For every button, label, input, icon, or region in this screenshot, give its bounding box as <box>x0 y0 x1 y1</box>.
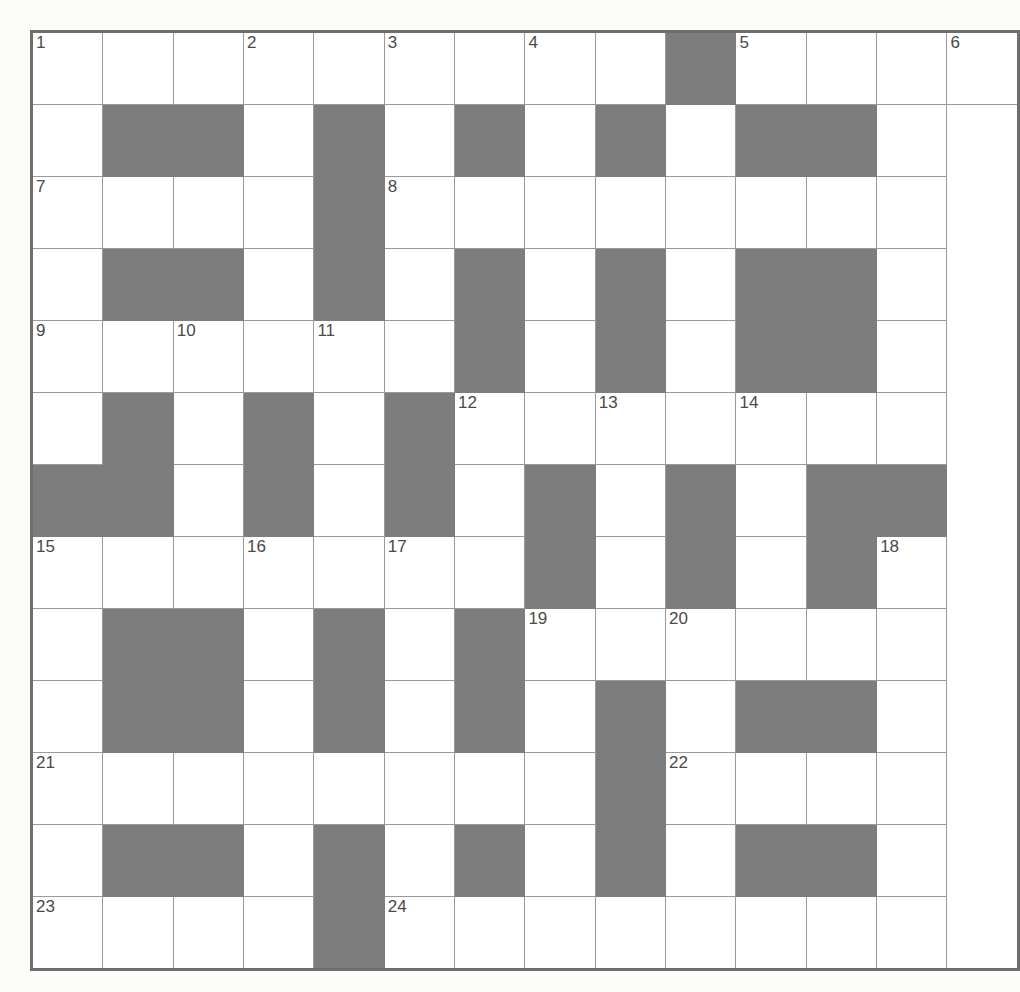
crossword-cell[interactable] <box>525 753 595 825</box>
crossword-cell[interactable] <box>877 32 947 105</box>
crossword-cell[interactable]: 15 <box>32 537 103 609</box>
crossword-cell[interactable] <box>455 753 525 825</box>
crossword-cell[interactable] <box>595 537 665 609</box>
crossword-cell[interactable]: 24 <box>384 897 454 970</box>
crossword-cell[interactable]: 12 <box>455 393 525 465</box>
crossword-cell[interactable] <box>806 177 876 249</box>
crossword-cell[interactable] <box>173 177 243 249</box>
crossword-cell[interactable] <box>877 609 947 681</box>
crossword-cell[interactable] <box>736 897 806 970</box>
crossword-cell[interactable] <box>244 321 314 393</box>
crossword-cell[interactable] <box>244 609 314 681</box>
crossword-cell[interactable] <box>455 32 525 105</box>
crossword-cell[interactable] <box>736 609 806 681</box>
crossword-cell[interactable] <box>384 105 454 177</box>
crossword-cell[interactable] <box>877 897 947 970</box>
crossword-cell[interactable] <box>525 681 595 753</box>
crossword-cell[interactable] <box>384 249 454 321</box>
crossword-cell[interactable]: 5 <box>736 32 806 105</box>
crossword-cell[interactable]: 6 <box>947 32 1019 105</box>
crossword-cell[interactable] <box>103 537 173 609</box>
crossword-cell[interactable]: 3 <box>384 32 454 105</box>
crossword-cell[interactable] <box>666 897 736 970</box>
crossword-cell[interactable] <box>525 249 595 321</box>
crossword-cell[interactable] <box>32 681 103 753</box>
crossword-cell[interactable] <box>806 393 876 465</box>
crossword-cell[interactable] <box>103 177 173 249</box>
crossword-cell[interactable] <box>666 825 736 897</box>
crossword-cell[interactable] <box>595 897 665 970</box>
crossword-cell[interactable] <box>877 393 947 465</box>
crossword-cell[interactable] <box>806 609 876 681</box>
crossword-cell[interactable]: 4 <box>525 32 595 105</box>
crossword-cell[interactable] <box>244 681 314 753</box>
crossword-cell[interactable] <box>244 105 314 177</box>
crossword-cell[interactable]: 2 <box>244 32 314 105</box>
crossword-cell[interactable]: 23 <box>32 897 103 970</box>
crossword-cell[interactable]: 16 <box>244 537 314 609</box>
crossword-cell[interactable] <box>525 105 595 177</box>
crossword-cell[interactable] <box>595 177 665 249</box>
crossword-cell[interactable] <box>666 105 736 177</box>
crossword-cell[interactable] <box>877 753 947 825</box>
crossword-cell[interactable] <box>877 681 947 753</box>
crossword-cell[interactable] <box>877 177 947 249</box>
crossword-cell[interactable] <box>244 753 314 825</box>
crossword-cell[interactable] <box>103 897 173 970</box>
crossword-cell[interactable] <box>314 753 384 825</box>
crossword-cell[interactable] <box>314 393 384 465</box>
crossword-cell[interactable]: 10 <box>173 321 243 393</box>
crossword-cell[interactable]: 1 <box>32 32 103 105</box>
crossword-cell[interactable] <box>666 177 736 249</box>
crossword-cell[interactable] <box>314 32 384 105</box>
crossword-cell[interactable] <box>103 753 173 825</box>
crossword-cell[interactable] <box>173 32 243 105</box>
crossword-cell[interactable] <box>314 465 384 537</box>
crossword-cell[interactable]: 13 <box>595 393 665 465</box>
crossword-cell[interactable] <box>384 825 454 897</box>
crossword-cell[interactable] <box>173 465 243 537</box>
crossword-cell[interactable] <box>736 753 806 825</box>
crossword-cell[interactable] <box>32 825 103 897</box>
crossword-cell[interactable]: 19 <box>525 609 595 681</box>
crossword-cell[interactable] <box>455 465 525 537</box>
crossword-cell[interactable] <box>666 321 736 393</box>
crossword-cell[interactable]: 21 <box>32 753 103 825</box>
crossword-cell[interactable] <box>32 393 103 465</box>
crossword-cell[interactable] <box>877 105 947 177</box>
crossword-cell[interactable]: 7 <box>32 177 103 249</box>
crossword-cell[interactable]: 8 <box>384 177 454 249</box>
crossword-cell[interactable] <box>173 393 243 465</box>
crossword-cell[interactable] <box>525 177 595 249</box>
crossword-cell[interactable] <box>32 105 103 177</box>
crossword-cell[interactable]: 11 <box>314 321 384 393</box>
crossword-cell[interactable] <box>666 393 736 465</box>
crossword-cell[interactable] <box>806 897 876 970</box>
crossword-cell[interactable] <box>666 681 736 753</box>
crossword-cell[interactable] <box>244 825 314 897</box>
crossword-cell[interactable] <box>595 32 665 105</box>
crossword-cell[interactable] <box>384 681 454 753</box>
crossword-cell[interactable] <box>455 537 525 609</box>
crossword-cell[interactable] <box>595 465 665 537</box>
crossword-cell[interactable] <box>384 609 454 681</box>
crossword-cell[interactable] <box>666 249 736 321</box>
crossword-cell[interactable] <box>32 249 103 321</box>
crossword-cell[interactable] <box>173 897 243 970</box>
crossword-cell[interactable] <box>806 753 876 825</box>
crossword-cell[interactable] <box>525 393 595 465</box>
crossword-cell[interactable] <box>525 825 595 897</box>
crossword-cell[interactable] <box>244 249 314 321</box>
crossword-grid-container[interactable]: 123456789101112131415161718192021222324 <box>30 30 1020 971</box>
crossword-cell[interactable] <box>455 897 525 970</box>
crossword-cell[interactable] <box>525 321 595 393</box>
crossword-cell[interactable] <box>877 825 947 897</box>
crossword-cell[interactable] <box>736 537 806 609</box>
crossword-cell[interactable]: 18 <box>877 537 947 609</box>
crossword-cell[interactable] <box>32 609 103 681</box>
crossword-cell[interactable] <box>736 465 806 537</box>
crossword-cell[interactable]: 17 <box>384 537 454 609</box>
crossword-cell[interactable] <box>103 321 173 393</box>
crossword-cell[interactable] <box>173 537 243 609</box>
crossword-cell[interactable]: 20 <box>666 609 736 681</box>
